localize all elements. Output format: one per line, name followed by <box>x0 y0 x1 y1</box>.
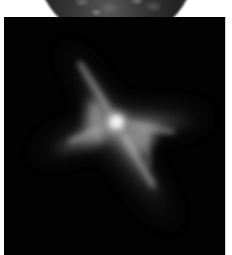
nebula-image <box>4 17 225 255</box>
nebula-panel <box>4 17 226 255</box>
